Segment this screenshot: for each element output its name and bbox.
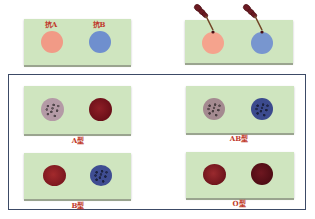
smooth-spot — [89, 98, 112, 121]
agglutinated-spot — [251, 98, 273, 120]
dropper-icon — [241, 2, 271, 36]
anti-a-serum-spot — [41, 31, 63, 53]
type-b-label: B型 — [72, 202, 85, 210]
anti-b-serum-spot — [89, 31, 111, 53]
type-o-label: O型 — [232, 200, 245, 208]
dropper-icon — [192, 2, 222, 36]
smooth-spot — [203, 164, 226, 185]
type-ab-label: AB型 — [230, 135, 248, 143]
type-a-label: A型 — [72, 137, 84, 145]
smooth-spot — [43, 165, 66, 186]
anti-b-label: 抗B — [93, 21, 106, 29]
anti-a-label: 抗A — [45, 21, 57, 29]
smooth-spot — [251, 163, 273, 185]
agglutinated-spot — [41, 98, 64, 121]
agglutinated-spot — [90, 165, 112, 186]
result-slide-type-b — [24, 153, 131, 199]
agglutinated-spot — [203, 98, 225, 120]
